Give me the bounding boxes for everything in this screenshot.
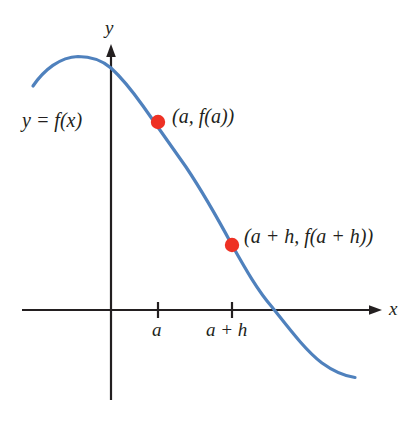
x-tick-label-a: a: [152, 320, 162, 339]
graph-svg: [0, 0, 413, 426]
x-axis-arrowhead: [369, 305, 382, 315]
x-tick-label-a-plus-h: a + h: [206, 320, 247, 339]
figure-canvas: y = f(x) (a, f(a)) (a + h, f(a + h)) y x…: [0, 0, 413, 426]
point-a-plus-h-label: (a + h, f(a + h)): [244, 226, 373, 246]
y-axis-label: y: [105, 18, 113, 37]
point-marker-a: [151, 115, 165, 129]
point-marker-a-plus-h: [225, 238, 239, 252]
point-a-label: (a, f(a)): [172, 106, 234, 126]
y-axis-arrowhead: [106, 44, 116, 57]
x-axis-label: x: [389, 299, 397, 318]
curve-equation-label: y = f(x): [22, 110, 82, 130]
